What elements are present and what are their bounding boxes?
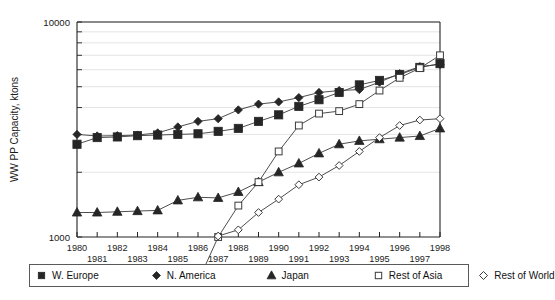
data-point-marker [254,117,262,125]
x-tick-label: 1997 [410,254,430,264]
data-point-marker [152,272,160,280]
chart-legend: W. EuropeN. AmericaJapanRest of AsiaRest… [29,264,469,287]
legend-label: Rest of Asia [389,270,442,281]
data-point-marker [435,123,444,131]
data-point-marker [38,272,44,278]
data-point-marker [294,158,303,166]
data-point-marker [234,106,242,114]
data-point-marker [295,122,302,129]
y-tick-label: 10000 [43,17,70,28]
legend-item-japan[interactable]: Japan [266,270,309,281]
data-point-marker [194,130,202,138]
data-point-marker [153,205,162,213]
x-tick-label: 1994 [349,243,369,253]
data-point-marker [336,108,343,115]
legend-item-rest-of-world[interactable]: Rest of World [478,270,554,281]
data-point-marker [295,102,303,110]
legend-items-row: W. EuropeN. AmericaJapanRest of AsiaRest… [30,265,468,286]
legend-label: N. America [167,270,216,281]
data-point-marker [295,181,303,189]
data-point-marker [314,148,323,156]
data-point-marker [274,167,283,175]
x-tick-label: 1991 [289,254,309,264]
series-line [77,128,440,212]
data-point-marker [315,173,323,181]
x-axis-ticks-group [77,232,440,237]
data-point-marker [416,65,423,72]
legend-item-n-america[interactable]: N. America [151,270,216,281]
data-point-marker [275,98,283,106]
x-tick-label: 1980 [67,243,87,253]
data-point-marker [214,127,222,135]
data-point-marker [415,131,424,139]
x-tick-label: 1996 [389,243,409,253]
data-point-marker [375,272,381,278]
data-point-marker [72,208,81,216]
x-tick-label: 1989 [248,254,268,264]
y-axis-tick-labels: 100001000 [43,17,70,243]
data-point-marker [214,115,222,123]
x-tick-label: 1982 [107,243,127,253]
data-point-marker [436,115,444,123]
open-diamond-icon [478,270,489,281]
legend-label: Japan [282,270,309,281]
x-tick-label: 1985 [168,254,188,264]
data-point-marker [234,187,243,195]
open-square-icon [373,270,384,281]
data-point-marker [113,207,122,215]
data-point-marker [416,116,424,124]
data-point-marker [376,87,383,94]
x-tick-label: 1986 [188,243,208,253]
legend-label: Rest of World [494,270,554,281]
y-tick-label: 1000 [49,232,70,243]
data-point-marker [194,117,202,125]
data-point-marker [133,206,142,214]
y-axis-title: WW PP Capacity, ktons [9,77,20,182]
series-japan [72,123,444,216]
data-point-marker [437,52,444,59]
data-point-marker [316,110,323,117]
series-line [218,119,440,236]
x-tick-label: 1998 [430,243,450,253]
gridlines-group [77,22,440,172]
legend-item-w-europe[interactable]: W. Europe [36,270,99,281]
x-tick-label: 1990 [268,243,288,253]
data-point-marker [234,124,242,132]
data-point-marker [355,148,363,156]
data-point-marker [396,74,403,81]
filled-triangle-icon [266,270,277,281]
data-point-marker [174,123,182,131]
data-point-marker [235,202,242,209]
x-tick-label: 1995 [369,254,389,264]
data-point-marker [335,162,343,170]
x-axis-tick-labels: 1980198219841986198819901992199419961998… [67,243,450,264]
data-point-marker [275,111,283,119]
data-point-marker [295,93,303,101]
data-point-marker [275,195,283,203]
legend-label: W. Europe [52,270,99,281]
series-rest-of-world [214,115,444,240]
legend-item-rest-of-asia[interactable]: Rest of Asia [373,270,442,281]
data-point-marker [73,140,81,148]
data-point-marker [356,101,363,108]
data-point-marker [396,122,404,130]
data-point-marker [73,130,81,138]
x-tick-label: 1993 [329,254,349,264]
data-point-marker [254,100,262,108]
x-tick-label: 1981 [87,254,107,264]
x-tick-label: 1988 [228,243,248,253]
x-tick-label: 1984 [147,243,167,253]
data-point-marker [267,271,276,279]
data-point-marker [255,179,262,186]
series-n-america [73,60,444,140]
x-tick-label: 1992 [309,243,329,253]
x-tick-label: 1983 [127,254,147,264]
x-tick-label: 1987 [208,254,228,264]
filled-square-icon [36,270,47,281]
data-point-marker [275,148,282,155]
data-point-marker [480,272,488,280]
data-point-marker [92,208,101,216]
y-axis-ticks-group [77,22,82,237]
